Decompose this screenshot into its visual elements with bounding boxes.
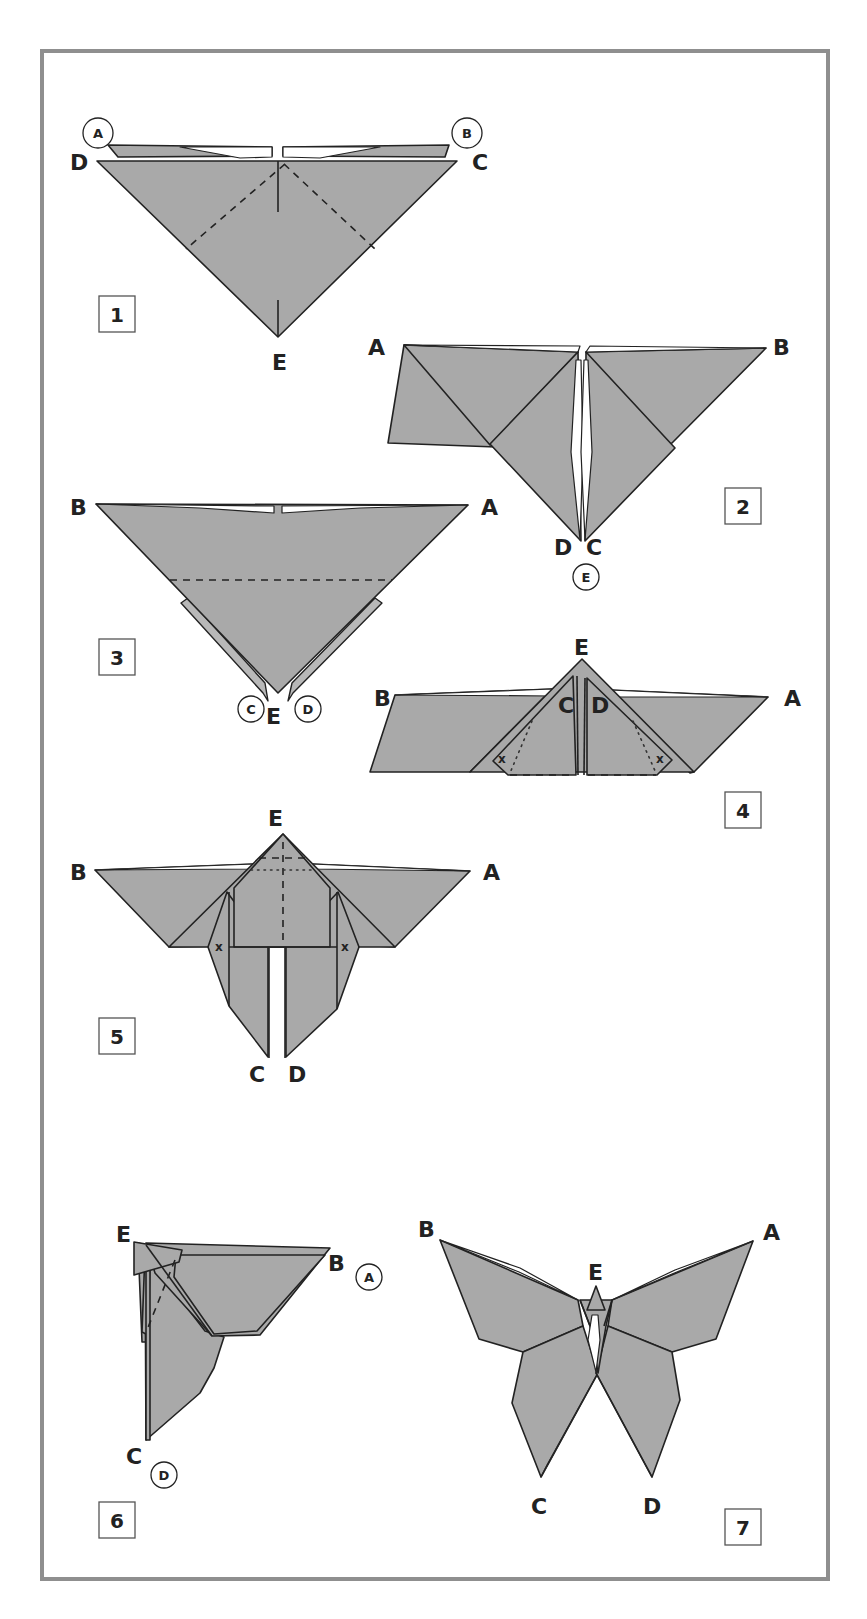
step-2: A B D C E 2 bbox=[368, 335, 790, 590]
label-e: E bbox=[272, 350, 287, 375]
lower-wing-gap bbox=[146, 1245, 150, 1440]
label-c: C bbox=[246, 702, 256, 717]
gap-left bbox=[95, 864, 254, 870]
x-mark-left: x bbox=[215, 940, 223, 954]
label-d: D bbox=[288, 1062, 306, 1087]
main-triangle bbox=[97, 161, 457, 337]
label-a: A bbox=[93, 126, 103, 141]
step-number: 1 bbox=[110, 303, 124, 327]
step-4: x x C D E B A 4 bbox=[370, 635, 801, 828]
center-slit bbox=[269, 948, 285, 1058]
label-c: C bbox=[126, 1444, 142, 1469]
gap-left bbox=[395, 689, 552, 696]
label-e: E bbox=[582, 570, 591, 585]
label-a: A bbox=[364, 1270, 374, 1285]
label-d: D bbox=[159, 1468, 170, 1483]
label-a: A bbox=[483, 860, 500, 885]
x-mark-right: x bbox=[656, 752, 664, 766]
label-d: D bbox=[303, 702, 314, 717]
label-d: D bbox=[70, 150, 88, 175]
label-b: B bbox=[70, 495, 87, 520]
origami-butterfly-diagram: A B D C E 1 A B D C E 2 B A bbox=[0, 0, 867, 1619]
label-c: C bbox=[558, 693, 574, 718]
head bbox=[587, 1286, 605, 1310]
step-7: B A E C D 7 bbox=[418, 1217, 780, 1545]
label-b: B bbox=[773, 335, 790, 360]
label-e: E bbox=[574, 635, 589, 660]
step-number: 3 bbox=[110, 646, 124, 670]
body-panel bbox=[234, 834, 330, 947]
label-c: C bbox=[249, 1062, 265, 1087]
step-number: 5 bbox=[110, 1025, 124, 1049]
main-triangle bbox=[96, 504, 468, 693]
label-a: A bbox=[784, 686, 801, 711]
label-e: E bbox=[588, 1260, 603, 1285]
x-mark-right: x bbox=[341, 940, 349, 954]
label-c: C bbox=[472, 150, 488, 175]
step-6: E B A C D 6 bbox=[99, 1222, 382, 1538]
label-d: D bbox=[554, 535, 572, 560]
label-b: B bbox=[374, 686, 391, 711]
step-5: x x E B A C D 5 bbox=[70, 806, 500, 1087]
label-c: C bbox=[531, 1494, 547, 1519]
crease-d bbox=[584, 678, 585, 775]
gap-right bbox=[610, 690, 768, 697]
crease-c bbox=[577, 676, 578, 775]
label-c: C bbox=[586, 535, 602, 560]
x-mark-left: x bbox=[498, 752, 506, 766]
label-a: A bbox=[481, 495, 498, 520]
label-a: A bbox=[763, 1220, 780, 1245]
label-d: D bbox=[591, 693, 609, 718]
label-a: A bbox=[368, 335, 385, 360]
step-number: 4 bbox=[736, 799, 750, 823]
label-b: B bbox=[70, 860, 87, 885]
step-number: 2 bbox=[736, 495, 750, 519]
label-e: E bbox=[266, 704, 281, 729]
step-1: A B D C E 1 bbox=[70, 118, 488, 375]
label-b: B bbox=[462, 126, 472, 141]
label-e: E bbox=[116, 1222, 131, 1247]
label-d: D bbox=[643, 1494, 661, 1519]
label-b: B bbox=[418, 1217, 435, 1242]
label-b: B bbox=[328, 1251, 345, 1276]
step-number: 6 bbox=[110, 1509, 124, 1533]
label-e: E bbox=[268, 806, 283, 831]
step-number: 7 bbox=[736, 1516, 750, 1540]
